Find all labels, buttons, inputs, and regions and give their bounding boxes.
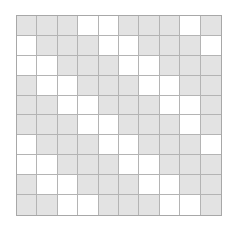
grid-cell [58,16,78,36]
grid-cell [180,195,200,215]
grid-cell [119,96,139,116]
grid-cell [58,56,78,76]
grid-cell [78,36,98,56]
grid-cell [119,175,139,195]
grid-cell [58,155,78,175]
grid-cell [119,155,139,175]
grid-cell [37,96,57,116]
grid-cell [201,115,221,135]
grid-cell [201,16,221,36]
grid-cell [160,96,180,116]
grid-cell [17,155,37,175]
grid-cell [201,96,221,116]
grid-cell [99,135,119,155]
grid-cell [160,76,180,96]
grid-cell [99,56,119,76]
grid-cell [58,195,78,215]
grid-cell [58,115,78,135]
grid-cell [139,175,159,195]
grid-cell [139,36,159,56]
grid-cell [78,76,98,96]
grid-cell [201,135,221,155]
grid-cell [17,195,37,215]
grid-cell [139,135,159,155]
grid-cell [119,36,139,56]
grid-cell [201,195,221,215]
grid-cell [17,76,37,96]
grid-cell [160,36,180,56]
grid-cell [58,175,78,195]
grid-cell [17,115,37,135]
grid-cell [160,56,180,76]
grid-cell [180,36,200,56]
grid-cell [78,96,98,116]
grid-cell [119,76,139,96]
grid-cell [37,155,57,175]
grid-cell [139,56,159,76]
grid-cell [99,96,119,116]
grid-cell [99,36,119,56]
grid-cell [180,175,200,195]
grid-cell [139,115,159,135]
grid-cell [119,16,139,36]
grid-cell [99,16,119,36]
grid-cell [180,135,200,155]
grid-cell [99,115,119,135]
grid-cell [139,155,159,175]
grid-cell [17,175,37,195]
grid-cell [139,195,159,215]
grid-cell [160,155,180,175]
grid-cell [201,36,221,56]
grid-cell [37,76,57,96]
grid-cell [119,56,139,76]
grid-cell [201,155,221,175]
grid-cell [139,16,159,36]
grid-cell [78,195,98,215]
grid-cell [99,76,119,96]
grid-cell [58,36,78,56]
grid-cell [37,56,57,76]
grid-cell [78,56,98,76]
grid-cell [17,96,37,116]
grid-cell [58,135,78,155]
grid-cell [201,56,221,76]
grid-cell [58,96,78,116]
grid-cell [99,175,119,195]
grid-cell [180,56,200,76]
grid-cell [119,115,139,135]
grid-cell [160,135,180,155]
grid-cell [180,76,200,96]
grid-cell [99,195,119,215]
page-root [0,0,231,227]
grid-cell [37,175,57,195]
grid-cell [58,76,78,96]
grid-pattern-figure [16,15,222,216]
grid-cell [201,76,221,96]
grid-cell [78,155,98,175]
grid-cell [37,115,57,135]
grid-cell [37,195,57,215]
grid-cell [99,155,119,175]
grid-cell [78,135,98,155]
grid-cell [17,36,37,56]
grid-cell [37,135,57,155]
grid-cell [201,175,221,195]
grid-cell [160,16,180,36]
grid-cell [17,56,37,76]
grid-cell [180,96,200,116]
grid-cell [17,135,37,155]
grid-cell [160,195,180,215]
grid-cell [78,16,98,36]
grid-cell [78,115,98,135]
grid-cell [119,195,139,215]
grid-cell [160,175,180,195]
grid-cell [160,115,180,135]
grid-cell [139,96,159,116]
grid-cell [119,135,139,155]
grid-cell [37,36,57,56]
grid-cell [180,155,200,175]
grid-cell [17,16,37,36]
grid-cell [180,115,200,135]
grid-cell [180,16,200,36]
grid-cell [139,76,159,96]
